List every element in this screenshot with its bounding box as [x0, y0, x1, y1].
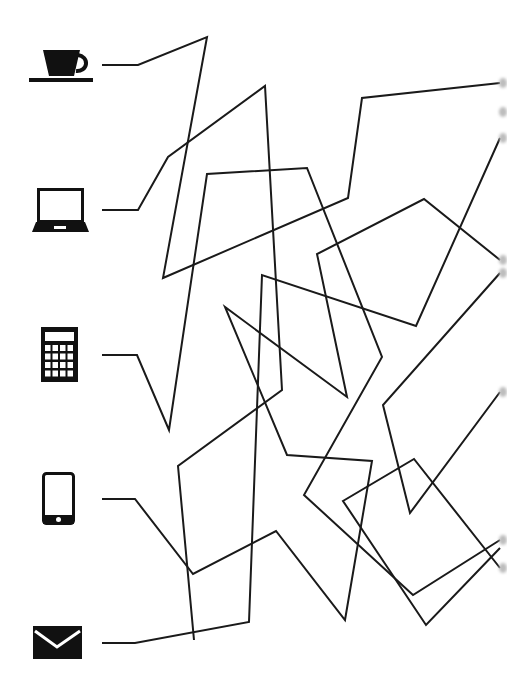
envelope-icon[interactable] — [33, 626, 82, 659]
calculator-icon[interactable] — [41, 327, 78, 382]
line-path-right-a — [383, 273, 500, 513]
coffee-cup-icon[interactable] — [29, 50, 93, 82]
line-path-laptop — [102, 86, 282, 640]
endpoint-marker — [499, 133, 507, 143]
line-path-right-b — [343, 459, 500, 625]
laptop-icon[interactable] — [32, 190, 89, 233]
endpoint-marker — [499, 255, 507, 265]
endpoint-marker — [499, 535, 507, 545]
line-path-coffee-cup — [102, 37, 500, 278]
line-path-envelope — [102, 138, 500, 643]
endpoint-marker — [499, 78, 507, 88]
line-path-calculator — [102, 168, 500, 595]
endpoint-marker — [499, 563, 507, 573]
line-path-tablet — [102, 199, 500, 620]
endpoint-marker — [499, 268, 507, 278]
endpoint-marker — [499, 107, 507, 117]
endpoint-marker — [499, 387, 507, 397]
tablet-icon[interactable] — [43, 474, 74, 525]
